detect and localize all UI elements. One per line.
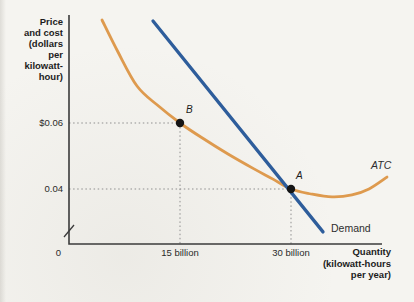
x-tick-0: 0 <box>21 247 61 258</box>
natural-monopoly-chart: Price and cost (dollars per kilowatt- ho… <box>0 0 414 302</box>
x-axis-title: Quantity (kilowatt-hours per year) <box>281 246 391 281</box>
y-axis-title: Price and cost (dollars per kilowatt- ho… <box>8 16 63 82</box>
scanned-page-background: Price and cost (dollars per kilowatt- ho… <box>0 0 414 302</box>
point-b-label: B <box>186 104 193 115</box>
atc-curve-label: ATC <box>371 159 391 171</box>
y-tick-0-06: $0.06 <box>21 117 63 128</box>
demand-curve-label: Demand <box>331 222 371 234</box>
x-tick-15-billion: 15 billion <box>135 247 225 258</box>
point-a-label: A <box>296 170 303 181</box>
y-tick-0-04: 0.04 <box>21 183 63 194</box>
